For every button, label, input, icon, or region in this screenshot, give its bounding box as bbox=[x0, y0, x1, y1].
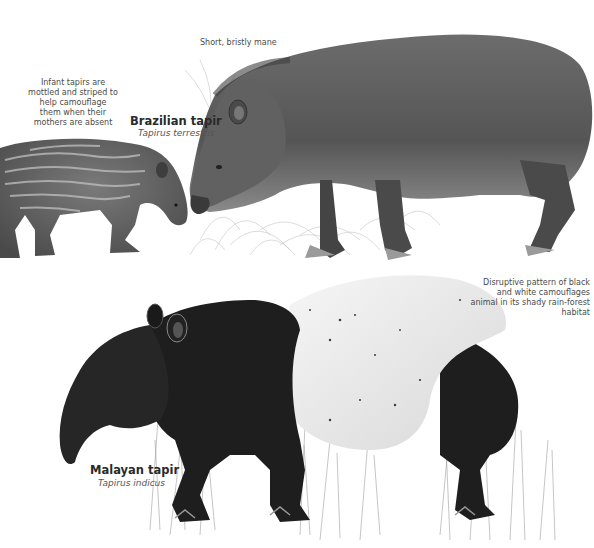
infant-tapir-illustration bbox=[0, 139, 188, 258]
malayan-tapir-label: Malayan tapir bbox=[90, 463, 179, 477]
camouflage-caption: Disruptive pattern of black and white ca… bbox=[470, 278, 590, 318]
mane-caption: Short, bristly mane bbox=[200, 38, 277, 48]
malayan-tapir-latin: Tapirus indicus bbox=[98, 478, 165, 488]
brazilian-tapir-label: Brazilian tapir bbox=[130, 114, 222, 128]
malayan-tapir-common-name: Malayan tapir bbox=[90, 463, 179, 477]
illustration-page: Infant tapirs are mottled and striped to… bbox=[0, 0, 594, 548]
brazilian-tapir-latin: Tapirus terrestris bbox=[138, 128, 214, 138]
infant-caption: Infant tapirs are mottled and striped to… bbox=[28, 78, 118, 128]
brazilian-tapir-common-name: Brazilian tapir bbox=[130, 114, 222, 128]
brazilian-tapir-illustration bbox=[190, 35, 593, 260]
